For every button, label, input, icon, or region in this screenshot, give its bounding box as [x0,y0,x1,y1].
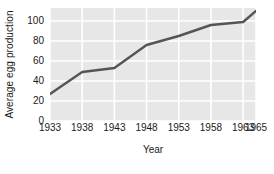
vertical-gridlines [50,8,256,121]
x-tick-label: 1938 [71,122,93,134]
line-chart-figure: Average egg production 020406080100 1933… [0,0,274,174]
x-tick-label: 1933 [39,122,61,134]
y-axis-title-text: Average egg production [4,10,15,118]
x-axis-title: Year [50,144,256,155]
plot-svg [50,8,256,121]
y-tick-label: 100 [27,16,44,26]
x-tick-label: 1958 [200,122,222,134]
x-tick-label: 1965 [245,122,267,134]
y-tick-label: 40 [33,76,44,86]
y-tick-label: 60 [33,56,44,66]
horizontal-gridlines [50,21,256,121]
x-axis-tick-labels: 19331938194319481953195819631965 [0,122,274,138]
plot-area [50,8,256,121]
y-tick-label: 80 [33,36,44,46]
x-tick-label: 1953 [168,122,190,134]
x-tick-label: 1948 [135,122,157,134]
y-tick-label: 20 [33,96,44,106]
y-axis-tick-labels: 020406080100 [16,0,47,130]
x-tick-label: 1943 [103,122,125,134]
